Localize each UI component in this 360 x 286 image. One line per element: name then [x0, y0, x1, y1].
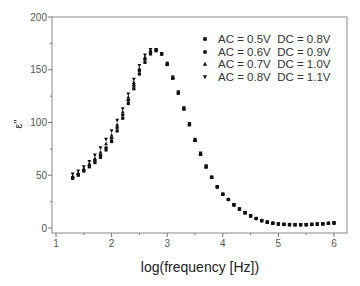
data-point-triangle-down: [110, 129, 114, 133]
data-point-square: [121, 117, 124, 120]
y-axis-label: ε'': [12, 119, 24, 128]
y-tick-label: 150: [30, 64, 47, 75]
data-point-square: [132, 87, 135, 90]
legend-marker-circle: [203, 50, 207, 54]
data-point-triangle-down: [126, 92, 130, 96]
legend-label: AC = 0.8V DC = 1.1V: [218, 71, 331, 83]
legend: AC = 0.5V DC = 0.8VAC = 0.6V DC = 0.9VAC…: [203, 33, 331, 83]
data-point-circle: [104, 146, 108, 150]
x-tick-label: 3: [164, 238, 170, 249]
legend-label: AC = 0.7V DC = 1.0V: [218, 58, 331, 70]
data-point-triangle-down: [104, 138, 108, 142]
x-tick-label: 6: [331, 238, 337, 249]
data-point-triangle-down: [71, 173, 75, 177]
data-point-triangle-down: [93, 154, 97, 158]
legend-marker-triangle-down: [203, 75, 207, 79]
x-axis-ticks: 123456: [53, 233, 337, 249]
data-point-triangle-up: [104, 142, 108, 146]
data-point-triangle-down: [132, 78, 136, 82]
y-tick-label: 50: [36, 170, 48, 181]
x-tick-label: 1: [53, 238, 59, 249]
x-tick-label: 5: [276, 238, 282, 249]
data-point-circle: [132, 84, 136, 88]
y-tick-label: 100: [30, 117, 47, 128]
data-point-circle: [115, 126, 119, 130]
data-point-triangle-down: [82, 165, 86, 169]
data-point-circle: [127, 99, 131, 103]
x-tick-label: 2: [109, 238, 115, 249]
y-axis-ticks: 050100150200: [30, 12, 52, 234]
data-point-triangle-down: [99, 146, 103, 150]
legend-marker-triangle-up: [203, 62, 207, 66]
chart: 123456 050100150200 AC = 0.5V DC = 0.8VA…: [0, 0, 360, 286]
data-point-circle: [121, 113, 125, 117]
data-point-square: [138, 72, 141, 75]
data-point-triangle-down: [121, 107, 125, 111]
y-tick-label: 0: [41, 223, 47, 234]
data-point-square: [143, 61, 146, 64]
data-point-circle: [110, 137, 114, 141]
data-point-square: [116, 129, 119, 132]
data-point-circle: [99, 153, 103, 157]
y-tick-label: 200: [30, 12, 47, 23]
data-point-triangle-down: [76, 169, 80, 173]
data-point-triangle-down: [143, 53, 147, 57]
data-point-triangle-up: [115, 123, 119, 127]
data-point-triangle-up: [110, 133, 114, 137]
data-point-triangle-down: [87, 160, 91, 164]
legend-marker-square: [203, 37, 207, 41]
data-point-triangle-down: [137, 64, 141, 68]
data-point-square: [127, 102, 130, 105]
data-point-triangle-up: [99, 150, 103, 154]
legend-label: AC = 0.6V DC = 0.9V: [218, 46, 331, 58]
x-axis-label: log(frequency [Hz]): [141, 259, 259, 275]
data-point-square: [110, 140, 113, 143]
data-point-triangle-down: [115, 119, 119, 123]
x-tick-label: 4: [220, 238, 226, 249]
legend-label: AC = 0.5V DC = 0.8V: [218, 33, 331, 45]
